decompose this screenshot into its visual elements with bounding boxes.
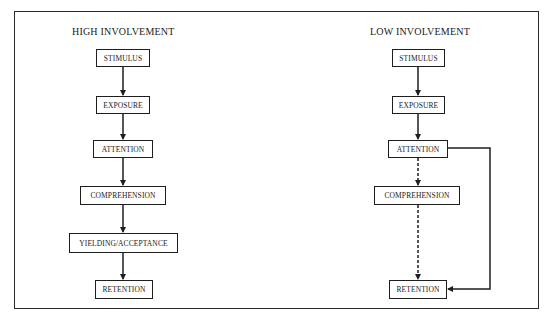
connector-lines bbox=[0, 0, 554, 327]
arrow-low-attention-retention-bypass bbox=[448, 148, 490, 289]
